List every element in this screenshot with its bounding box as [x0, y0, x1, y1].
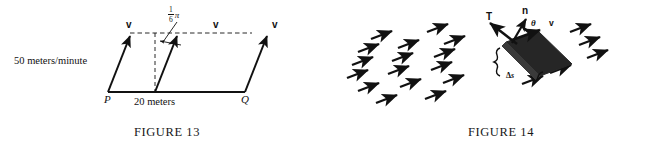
vector-label-1: v — [126, 20, 132, 30]
flow-arrow — [388, 66, 409, 74]
delta-s-label: Δs — [506, 72, 514, 80]
tangent-vector — [490, 23, 517, 44]
flow-arrow — [579, 37, 600, 45]
delta-s-brace — [494, 48, 500, 76]
velocity-vector-3 — [245, 36, 267, 92]
s-symbol: s — [511, 71, 514, 80]
flow-arrow — [570, 24, 591, 32]
figure-13-caption: FIGURE 13 — [0, 125, 334, 140]
point-p-label: P — [104, 94, 111, 105]
theta-label: θ — [531, 19, 536, 28]
flow-arrow — [358, 83, 379, 91]
flow-arrow — [347, 70, 368, 78]
flow-arrow — [358, 44, 379, 52]
flow-arrow — [425, 91, 446, 99]
figure-board: 50 meters/minute 20 meters P Q v v v 1 6… — [0, 0, 668, 143]
theta-arc — [523, 27, 530, 33]
flow-arrow — [431, 62, 452, 70]
velocity-vector-1 — [108, 36, 130, 92]
pi-symbol: π — [175, 10, 180, 20]
flow-arrow — [400, 79, 421, 87]
vector-label-2: v — [213, 20, 219, 30]
velocity-vector-2 — [155, 36, 177, 92]
angle-denominator: 6 — [168, 16, 174, 24]
flow-arrow — [371, 31, 392, 39]
base-length-label: 20 meters — [134, 97, 175, 108]
point-q-label: Q — [241, 94, 249, 105]
figure-14-caption: FIGURE 14 — [334, 125, 668, 140]
flow-arrow — [398, 40, 419, 48]
flow-arrow — [444, 36, 465, 44]
flow-arrow — [392, 53, 413, 61]
angle-indicator-arrow — [160, 41, 181, 45]
velocity-label: v — [549, 19, 554, 28]
flow-arrow — [427, 24, 448, 32]
flow-arrow — [352, 57, 373, 65]
angle-numerator: 1 — [168, 6, 174, 14]
flow-arrow — [587, 50, 608, 58]
figure-14-drawing — [334, 0, 668, 143]
speed-label: 50 meters/minute — [14, 56, 87, 67]
tangent-label: T — [486, 12, 492, 22]
flow-arrow — [376, 95, 397, 103]
angle-fraction: 1 6 — [168, 6, 174, 23]
normal-label: n — [522, 6, 528, 16]
flow-arrow — [434, 49, 455, 57]
vector-label-3: v — [272, 20, 278, 30]
flow-arrow — [443, 75, 464, 83]
figure-13-panel: 50 meters/minute 20 meters P Q v v v 1 6… — [0, 0, 334, 143]
figure-13-drawing — [0, 0, 334, 143]
angle-value-label: 1 6 π — [168, 6, 179, 23]
figure-14-panel: T n θ v Δs FIGURE 14 — [334, 0, 668, 143]
